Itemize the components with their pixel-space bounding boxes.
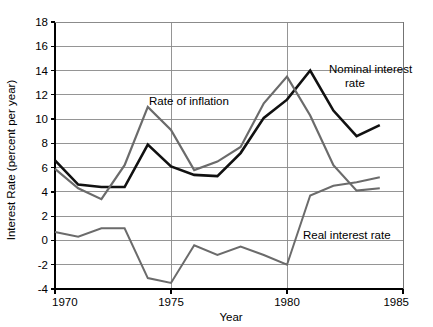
y-tick-label-2: 2 — [42, 210, 48, 222]
y-tick-label-18: 18 — [35, 16, 48, 28]
y-axis-title: Interest Rate (percent per year) — [5, 80, 17, 241]
x-axis-title: Year — [219, 311, 242, 323]
x-tick-label-1985: 1985 — [383, 296, 409, 308]
interest-rate-line-chart: -4-2024681012141618 1970197519801985 Rat… — [0, 0, 433, 327]
y-tick-label-12: 12 — [35, 89, 48, 101]
y-tick-label-8: 8 — [42, 137, 48, 149]
y-tick-label-6: 6 — [42, 162, 48, 174]
y-tick-label--2: -2 — [38, 259, 48, 271]
y-tick-label--4: -4 — [38, 283, 49, 295]
x-tick-label-1970: 1970 — [52, 296, 78, 308]
chart-background — [0, 0, 433, 327]
y-tick-label-14: 14 — [35, 65, 48, 77]
chart-container: -4-2024681012141618 1970197519801985 Rat… — [0, 0, 433, 327]
nominal-interest-rate-label-line1: Nominal interest — [329, 63, 413, 75]
y-tick-label-0: 0 — [42, 234, 48, 246]
y-tick-label-10: 10 — [35, 113, 48, 125]
x-tick-label-1980: 1980 — [274, 296, 300, 308]
x-tick-label-1975: 1975 — [158, 296, 184, 308]
nominal-interest-rate-label-line2: rate — [345, 77, 365, 89]
y-tick-label-16: 16 — [35, 40, 48, 52]
y-tick-label-4: 4 — [42, 186, 49, 198]
rate-of-inflation-label: Rate of inflation — [149, 95, 229, 107]
real-interest-rate-label: Real interest rate — [303, 229, 391, 241]
